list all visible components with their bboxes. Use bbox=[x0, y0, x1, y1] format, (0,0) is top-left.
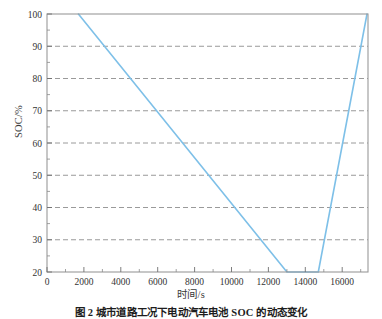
y-tick-label: 50 bbox=[33, 171, 43, 181]
figure-caption: 图 2 城市道路工况下电动汽车电池 SOC 的动态变化 bbox=[0, 304, 382, 319]
soc-line-chart: 100 90 80 70 60 50 40 30 20 0 2000 4000 … bbox=[0, 0, 382, 290]
y-tick-label: 30 bbox=[33, 235, 43, 245]
x-axis-label: 时间/s bbox=[0, 286, 382, 301]
grid-lines bbox=[47, 46, 368, 240]
y-tick-label: 20 bbox=[33, 268, 43, 278]
y-tick-label: 100 bbox=[28, 10, 43, 20]
y-tick-labels: 100 90 80 70 60 50 40 30 20 bbox=[28, 10, 43, 278]
plot-area: 100 90 80 70 60 50 40 30 20 0 2000 4000 … bbox=[0, 0, 382, 290]
y-tick-label: 70 bbox=[33, 106, 43, 116]
y-tick-label: 40 bbox=[33, 203, 43, 213]
y-tick-label: 90 bbox=[33, 42, 43, 52]
y-axis-label: SOC/% bbox=[13, 92, 24, 152]
y-tick-label: 80 bbox=[33, 74, 43, 84]
y-axis-ticks bbox=[47, 14, 52, 272]
y-tick-label: 60 bbox=[33, 139, 43, 149]
